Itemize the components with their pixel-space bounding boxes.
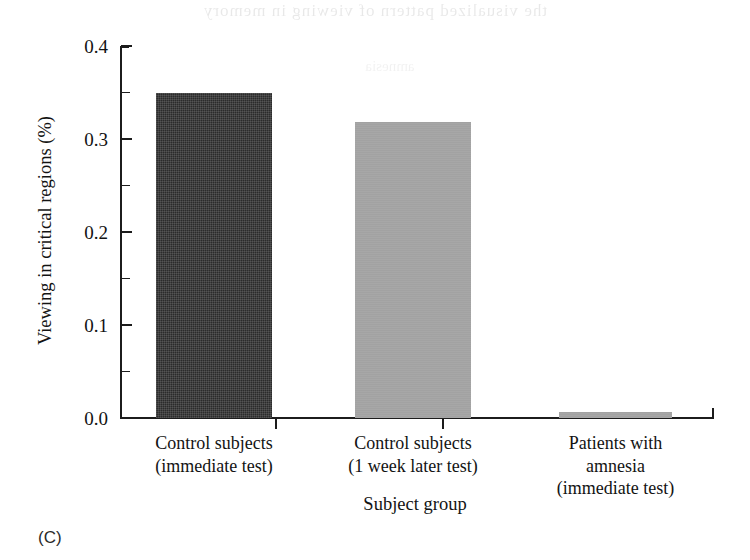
bar-2 [355, 122, 471, 418]
x-axis-tick-1 [275, 418, 277, 429]
bar-1 [156, 93, 272, 419]
y-axis-tick-label: 0.1 [50, 316, 108, 335]
category-label-line: Control subjects [303, 432, 523, 455]
bar-chart-figure: 0.00.10.20.30.4 Viewing in critical regi… [0, 0, 750, 560]
category-label-line: Control subjects [104, 432, 324, 455]
category-label-2: Control subjects(1 week later test) [303, 432, 523, 477]
plot-area [120, 46, 714, 418]
category-label-3: Patients withamnesia(immediate test) [506, 432, 726, 500]
y-axis-tick-label: 0.2 [50, 223, 108, 242]
x-axis-title-text: Subject group [363, 494, 466, 514]
category-label-line: (1 week later test) [303, 455, 523, 478]
y-axis-tick-label: 0.0 [50, 409, 108, 428]
x-axis-tick-2 [442, 418, 444, 429]
category-label-line: (immediate test) [104, 455, 324, 478]
y-axis-tick-label: 0.4 [50, 37, 108, 56]
category-label-1: Control subjects(immediate test) [104, 432, 324, 477]
category-label-line: amnesia [506, 455, 726, 478]
category-label-line: Patients with [506, 432, 726, 455]
x-axis-title: Subject group [0, 494, 750, 515]
y-axis-tick-label: 0.3 [50, 130, 108, 149]
panel-letter: (C) [38, 528, 62, 548]
bar-3 [559, 412, 672, 419]
y-axis-title: Viewing in critical regions (%) [35, 51, 56, 411]
